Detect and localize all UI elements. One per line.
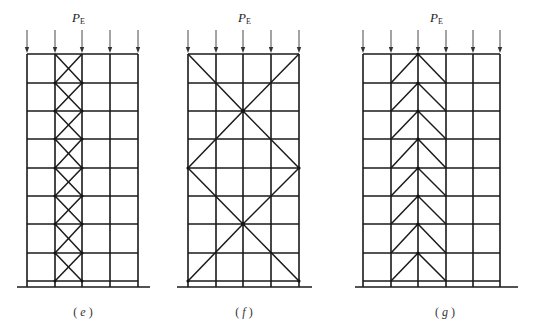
arrow-down-icon [53, 47, 57, 53]
load-label: PE [237, 10, 251, 26]
chevron-brace-diagonal [391, 224, 418, 253]
brace-node [416, 222, 419, 225]
chevron-brace-diagonal [391, 196, 418, 224]
chevron-brace-diagonal [391, 83, 418, 111]
frame-f-diamond-braced: PE( f ) [177, 10, 312, 319]
chevron-brace-diagonal [391, 253, 418, 281]
arrow-down-icon [471, 47, 475, 53]
chevron-brace-diagonal [391, 139, 418, 168]
brace-node [416, 81, 419, 84]
arrow-down-icon [389, 47, 393, 53]
arrow-down-icon [25, 47, 29, 53]
chevron-brace-diagonal [391, 111, 418, 139]
brace-node [54, 280, 57, 283]
arrow-down-icon [108, 47, 112, 53]
chevron-brace-diagonal [391, 54, 418, 83]
arrow-down-icon [214, 47, 218, 53]
arrow-down-icon [416, 47, 420, 53]
chevron-brace-diagonal [391, 168, 418, 196]
brace-node [416, 52, 419, 55]
arrow-down-icon [297, 47, 301, 53]
frame-g-chevron-braced: PE( g ) [355, 10, 518, 319]
arrow-down-icon [361, 47, 365, 53]
brace-node [416, 137, 419, 140]
frame-caption: ( e ) [73, 305, 92, 319]
brace-node [81, 280, 84, 283]
load-label: PE [429, 10, 443, 26]
arrow-down-icon [136, 47, 140, 53]
brace-node [416, 251, 419, 254]
brace-node [186, 279, 189, 282]
frame-caption: ( g ) [435, 305, 455, 319]
brace-node [297, 279, 300, 282]
frame-e-x-braced: PE( e ) [17, 10, 150, 319]
frame-caption: ( f ) [235, 305, 252, 319]
arrow-down-icon [241, 47, 245, 53]
brace-node [416, 109, 419, 112]
load-label: PE [71, 10, 85, 26]
arrow-down-icon [444, 47, 448, 53]
braced-frames-diagram: PE( e ) PE( f ) PE( g ) [0, 0, 533, 335]
chevron-brace-diagonal [418, 111, 446, 139]
chevron-brace-diagonal [418, 54, 446, 83]
arrow-down-icon [269, 47, 273, 53]
chevron-brace-diagonal [418, 139, 446, 168]
arrow-down-icon [186, 47, 190, 53]
brace-node [416, 194, 419, 197]
arrow-down-icon [498, 47, 502, 53]
chevron-brace-diagonal [418, 224, 446, 253]
chevron-brace-diagonal [418, 168, 446, 196]
brace-node [416, 166, 419, 169]
chevron-brace-diagonal [418, 196, 446, 224]
arrow-down-icon [80, 47, 84, 53]
chevron-brace-diagonal [418, 83, 446, 111]
chevron-brace-diagonal [418, 253, 446, 281]
